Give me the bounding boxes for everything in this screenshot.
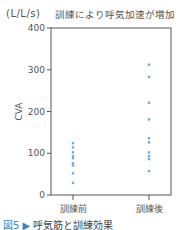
data-point xyxy=(148,158,150,160)
y-tick-label: 0 xyxy=(39,190,45,200)
x-tick-label: 訓練前 xyxy=(60,203,87,214)
scatter-chart: 0100200300400CVA訓練前訓練後 xyxy=(0,0,182,230)
data-point xyxy=(148,141,150,143)
data-point xyxy=(72,155,74,157)
caption-label: 図5 ▶ xyxy=(3,220,30,230)
data-point xyxy=(72,151,74,153)
plot-frame xyxy=(51,28,171,195)
data-point xyxy=(72,182,74,184)
y-axis-label: CVA xyxy=(14,102,24,121)
y-tick-label: 200 xyxy=(28,107,45,117)
data-point xyxy=(148,76,150,78)
data-point xyxy=(148,64,150,66)
y-tick-label: 400 xyxy=(28,23,45,33)
data-point xyxy=(148,137,150,139)
data-point xyxy=(72,157,74,159)
figure-caption: 図5 ▶ 呼気筋と訓練効果 xyxy=(3,217,113,230)
data-point xyxy=(72,146,74,148)
data-point xyxy=(72,142,74,144)
data-point xyxy=(148,102,150,104)
data-point xyxy=(72,172,74,174)
caption-text: 呼気筋と訓練効果 xyxy=(33,220,113,230)
x-tick-label: 訓練後 xyxy=(136,203,163,214)
data-point xyxy=(72,162,74,164)
data-point xyxy=(148,118,150,120)
y-tick-label: 300 xyxy=(28,65,45,75)
data-point xyxy=(72,164,74,166)
data-point xyxy=(148,151,150,153)
data-point xyxy=(148,155,150,157)
y-tick-label: 100 xyxy=(28,148,45,158)
data-point xyxy=(148,170,150,172)
